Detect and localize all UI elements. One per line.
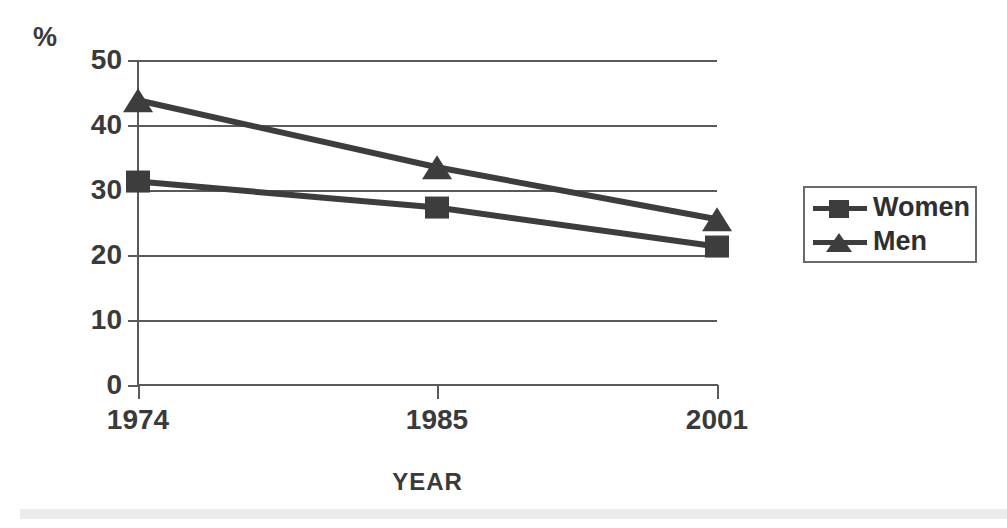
legend-triangle-marker-icon <box>813 228 867 256</box>
y-tick-10 <box>128 320 139 322</box>
gridline-30 <box>138 190 717 192</box>
plot-area <box>138 60 717 385</box>
x-tick-label-2001: 2001 <box>647 404 787 436</box>
gridline-40 <box>138 125 717 127</box>
gridline-10 <box>138 320 717 322</box>
y-tick-30 <box>128 190 139 192</box>
legend-square-marker-icon <box>813 194 867 222</box>
y-tick-20 <box>128 255 139 257</box>
y-tick-label-20: 20 <box>62 239 122 271</box>
legend-item-men[interactable]: Men <box>813 225 927 258</box>
x-tick-label-1974: 1974 <box>68 404 208 436</box>
bottom-gray-band <box>20 509 1007 519</box>
y-tick-50 <box>128 60 139 62</box>
x-tick-label-1985: 1985 <box>367 404 507 436</box>
x-axis-title: YEAR <box>0 468 855 496</box>
legend: Women Men <box>803 186 977 263</box>
gridline-20 <box>138 255 717 257</box>
legend-item-women[interactable]: Women <box>813 191 970 224</box>
y-tick-label-10: 10 <box>62 304 122 336</box>
x-axis-line <box>138 384 718 386</box>
x-tick-1985 <box>437 385 439 399</box>
y-tick-40 <box>128 125 139 127</box>
legend-label-men: Men <box>873 226 927 257</box>
y-tick-label-40: 40 <box>62 109 122 141</box>
y-axis-line <box>137 60 139 386</box>
y-tick-label-30: 30 <box>62 174 122 206</box>
gridline-50 <box>138 60 717 62</box>
y-axis-title: % <box>33 22 57 53</box>
line-chart: % 50 40 30 20 10 0 1974 1985 2001 <box>0 0 1007 528</box>
y-tick-label-50: 50 <box>62 44 122 76</box>
x-tick-1974 <box>138 385 140 399</box>
legend-label-women: Women <box>873 192 970 223</box>
y-tick-label-0: 0 <box>62 369 122 401</box>
x-tick-2001 <box>717 385 719 399</box>
